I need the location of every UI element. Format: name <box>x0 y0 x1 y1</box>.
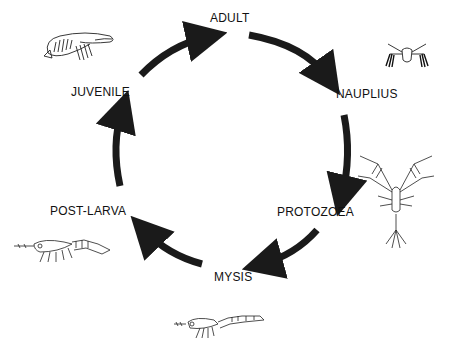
nauplius-illustration <box>384 40 430 72</box>
stage-label-mysis: MYSIS <box>214 270 252 284</box>
arrow-adult-to-nauplius <box>249 35 328 78</box>
arrow-postlarva-to-juvenile <box>116 110 122 186</box>
protozoea-illustration <box>358 152 434 252</box>
juvenile-shrimp-illustration <box>40 28 118 72</box>
mysis-illustration <box>174 312 274 342</box>
arrow-juvenile-to-adult <box>141 37 207 75</box>
post-larva-illustration <box>14 236 114 266</box>
stage-label-adult: ADULT <box>210 11 249 25</box>
arrow-nauplius-to-protozoea <box>342 115 348 196</box>
arrow-protozoea-to-mysis <box>262 230 317 264</box>
stage-label-post-larva: POST-LARVA <box>50 204 126 218</box>
stage-label-juvenile: JUVENILE <box>71 85 130 99</box>
stage-label-protozoea: PROTOZOEA <box>277 205 354 219</box>
arrow-mysis-to-postlarva <box>145 231 202 264</box>
stage-label-nauplius: NAUPLIUS <box>336 87 398 101</box>
